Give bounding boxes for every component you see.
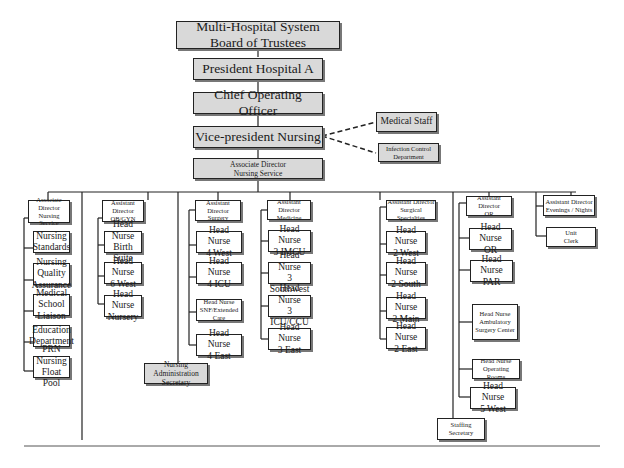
org-box-col6-item-label-line: Ambulatory — [479, 318, 510, 326]
org-box-col3-head-label-line: Assistant Director — [196, 199, 240, 215]
org-box-col4-head: Assistant DirectorMedicine — [267, 200, 311, 220]
org-box-col1-item-label-line: Nursing Quality — [34, 257, 69, 280]
org-box-col3-head-label-line: Surgery — [208, 214, 228, 222]
org-box-col2-item: Head NurseBirth Suite — [104, 231, 142, 253]
org-box-col4-item: Head Nurse3 Southwest — [268, 262, 311, 284]
org-box-col3-item: Head Nurse4 ICU — [196, 262, 242, 284]
org-box-col5-head-label-line: Surgical Specialties — [387, 206, 435, 222]
org-box-staffing: StaffingSecretary — [437, 418, 485, 440]
org-box-col6-item-label-line: Head Nurse — [471, 381, 515, 404]
org-box-col5-item-label-line: 2 East — [394, 344, 417, 355]
org-box-col5-item-label-line: Head Nurse — [387, 225, 425, 248]
org-box-col3-item-label-line: 4 ICU — [207, 279, 231, 290]
org-box-col5-item-label-line: 2 South — [391, 279, 420, 290]
org-box-col2-item-label-line: Head Nurse — [105, 256, 141, 279]
org-box-col3-item-label-line: 4 East — [207, 351, 230, 362]
org-box-col4-head-label-line: Assistant Director — [268, 198, 310, 214]
org-box-col3-item-label-line: Head Nurse — [197, 225, 241, 248]
org-box-col5-item: Head Nurse2 Main — [386, 297, 426, 319]
org-box-col6-head-label-line: OR — [484, 210, 493, 218]
org-box-board-label-line: Board of Trustees — [210, 35, 306, 51]
org-box-col7-item-label-line: Clerk — [564, 237, 578, 245]
org-box-col4-item: Head Nurse3 IMCU — [268, 230, 311, 252]
org-box-vp-label-line: Vice-president Nursing — [195, 129, 321, 145]
org-box-col3-item-label-line: Head Nurse — [204, 298, 235, 306]
org-box-col6-item: Head Nurse5 West — [470, 387, 516, 409]
org-box-col4-item-label-line: Head Nurse — [269, 283, 310, 306]
org-box-president: President Hospital A — [193, 58, 323, 80]
org-box-col1-head: Associate DirectorNursing Service — [28, 200, 70, 223]
org-box-col5-item-label-line: Head Nurse — [387, 291, 425, 314]
dashed-connector — [322, 122, 376, 136]
org-box-col7-head: Assistant DirectorEvenings / Nights — [543, 195, 595, 216]
org-box-col1-item-label-line: Nursing — [36, 231, 67, 242]
org-box-col6-item: Head NurseOperating Rooms — [472, 359, 520, 379]
org-box-col7-head-label-line: Evenings / Nights — [546, 206, 593, 214]
org-box-col1-head-label-line: Associate Director — [29, 196, 69, 212]
org-box-col1-item: PRN NursingFloat Pool — [33, 356, 70, 378]
org-box-col4-item-label-line: 3 East — [278, 345, 301, 356]
org-box-infection-label-line: Infection Control — [386, 145, 431, 153]
org-box-col2-item: Head NurseNursery — [104, 295, 142, 317]
org-box-col3-item: Head Nurse4 West — [196, 231, 242, 253]
org-box-medstaff-label-line: Medical Staff — [381, 116, 433, 127]
org-box-col1-item: Medical SchoolLiaison — [33, 294, 70, 316]
org-box-coo-label-line: Chief Operating Officer — [194, 87, 322, 119]
org-box-col6-item-label-line: PAR — [483, 277, 501, 288]
org-box-col6-item: Head NursePAR — [470, 260, 513, 282]
org-box-col5-item: Head Nurse2 West — [386, 231, 426, 253]
org-box-col3-item: Head Nurse4 East — [196, 334, 242, 356]
org-box-col6-item-label-line: Head Nurse — [481, 357, 512, 365]
org-box-col3-item: Head NurseSNF/Extended Care — [196, 299, 242, 321]
org-box-col2-item-label-line: Nursery — [108, 312, 139, 323]
org-box-col2-item: Head Nurse6 West — [104, 262, 142, 284]
org-box-col1-item-label-line: PRN Nursing — [34, 344, 69, 367]
org-box-coo: Chief Operating Officer — [193, 92, 323, 114]
org-box-col1-item-label-line: Medical School — [34, 288, 69, 311]
org-box-col4-item: Head Nurse3 ICU/CCU — [268, 295, 311, 317]
org-box-assoc-label-line: Nursing Service — [234, 169, 283, 178]
org-box-col5-item-label-line: Head Nurse — [387, 256, 425, 279]
org-box-col4-item-label-line: Head Nurse — [269, 250, 310, 273]
org-box-col2-item-label-line: Head Nurse — [105, 219, 141, 242]
org-box-col1-item-label-line: Standards — [33, 242, 70, 253]
org-box-col7-item: UnitClerk — [546, 227, 596, 247]
org-box-col6-item-label-line: Head Nurse — [470, 222, 511, 245]
dashed-connector — [322, 136, 376, 153]
org-box-board: Multi-Hospital SystemBoard of Trustees — [176, 21, 340, 49]
org-box-col3-item-label-line: Head Nurse — [197, 256, 241, 279]
org-box-nas: Nursing AdministrationSecretary — [144, 363, 208, 384]
org-box-col5-item-label-line: Head Nurse — [387, 321, 425, 344]
org-box-infection-label-line: Department — [393, 153, 424, 161]
org-box-nas-label-line: Nursing Administration — [145, 360, 207, 378]
org-box-col6-head: Assistant DirectorOR — [466, 196, 512, 216]
org-box-infection: Infection ControlDepartment — [378, 143, 439, 162]
org-box-medstaff: Medical Staff — [376, 112, 437, 132]
org-box-col1-item: NursingStandards — [33, 231, 70, 253]
org-box-nas-label-line: Secretary — [162, 378, 190, 387]
org-box-col4-item: Head Nurse3 East — [268, 328, 311, 350]
org-box-col5-item: Head Nurse2 East — [386, 327, 426, 349]
org-box-col2-head-label-line: Assistant Director — [103, 199, 143, 215]
org-box-board-label-line: Multi-Hospital System — [196, 19, 319, 35]
org-box-col5-head-label-line: Assistant Director — [387, 198, 434, 206]
org-box-col6-item-label-line: Head Nurse — [480, 310, 511, 318]
org-box-col6-head-label-line: Assistant Director — [467, 194, 511, 210]
org-box-col6-item: Head NurseAmbulatorySurgery Center — [472, 304, 518, 340]
org-box-col5-head: Assistant DirectorSurgical Specialties — [386, 200, 436, 220]
org-box-col1-item-label-line: Liaison — [37, 311, 66, 322]
org-box-col1-item: Nursing QualityAssurance — [33, 263, 70, 285]
org-box-col1-item-label-line: Float Pool — [34, 367, 69, 390]
org-box-staffing-label-line: Secretary — [449, 429, 474, 437]
org-box-assoc: Associate DirectorNursing Service — [193, 158, 323, 179]
org-box-col6-item-label-line: 5 West — [480, 404, 506, 415]
org-box-assoc-label-line: Associate Director — [230, 160, 286, 169]
org-box-col3-item-label-line: SNF/Extended Care — [197, 306, 241, 322]
org-box-col7-head-label-line: Assistant Director — [545, 198, 592, 206]
org-box-col6-item: Head NurseOR — [469, 228, 512, 250]
org-box-col6-item-label-line: Head Nurse — [471, 254, 512, 277]
org-box-president-label-line: President Hospital A — [202, 61, 314, 77]
org-box-vp: Vice-president Nursing — [193, 126, 323, 148]
org-box-staffing-label-line: Staffing — [451, 421, 472, 429]
org-box-col3-head: Assistant DirectorSurgery — [195, 200, 241, 221]
